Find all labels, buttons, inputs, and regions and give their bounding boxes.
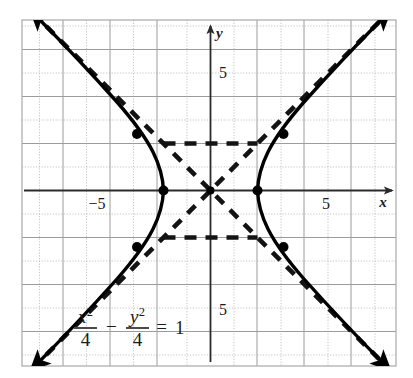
equation-label: x2 4 − y2 4 = 1	[72, 306, 185, 349]
x-axis-label: x	[378, 194, 387, 210]
hyperbola-plot: y x 5 5 5 −5	[0, 0, 413, 378]
x-tick-label-positive: 5	[322, 195, 330, 212]
equation-y-fraction: y2 4	[126, 306, 149, 349]
equation-x-fraction: x2 4	[74, 306, 97, 349]
point-upper-left	[132, 129, 142, 139]
equation-right-side: 1	[175, 318, 185, 337]
point-center	[207, 187, 215, 195]
y-axis-label: y	[214, 25, 223, 41]
point-vertex-right	[253, 186, 263, 196]
point-lower-left	[132, 242, 142, 252]
equation-minus-operator: −	[106, 317, 117, 338]
point-vertex-left	[159, 186, 169, 196]
point-upper-right	[279, 129, 289, 139]
x-tick-label-negative: −5	[88, 195, 105, 212]
equation-y-denominator: 4	[129, 329, 147, 349]
hyperbola-figure: y x 5 5 5 −5 x2 4 − y2 4 = 1	[0, 0, 413, 378]
equation-x-denominator: 4	[77, 329, 95, 349]
y-tick-label-positive: 5	[219, 64, 227, 81]
equation-y-numerator: y2	[126, 306, 149, 327]
equation-x-numerator: x2	[74, 306, 97, 327]
equation-equals-sign: =	[156, 317, 167, 338]
y-tick-label-negative: 5	[219, 301, 227, 318]
point-lower-right	[279, 242, 289, 252]
